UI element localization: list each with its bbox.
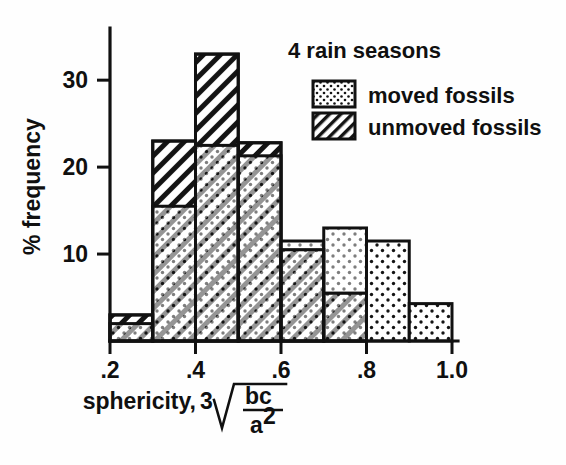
dotted-swatch-icon [313,81,355,107]
moved-fossils-bar [196,145,239,341]
moved-fossils-bar [110,324,153,341]
legend-label-unmoved: unmoved fossils [368,115,542,140]
x-tick-label: .2 [100,357,119,383]
moved-fossils-bar [367,241,410,341]
y-tick-label: 30 [62,67,88,93]
y-axis-ticks: 102030 [62,67,110,267]
x-axis-title-prefix: sphericity, [83,388,196,414]
x-axis-ticks: .2.4.6.81.0 [100,341,468,383]
moved-fossils-bar [324,228,367,341]
moved-fossils-bar [238,156,281,341]
moved-fossils-bar [409,304,452,341]
y-axis-title-text: % frequency [19,118,45,255]
x-axis-radical-index: 3 [200,388,213,414]
x-axis-denominator: a [250,412,263,438]
y-axis-title: % frequency [19,118,45,255]
y-tick-label: 10 [62,241,88,267]
chart-canvas: 102030 .2.4.6.81.0 % frequency sphericit… [0,0,566,465]
x-axis-title: sphericity, 3 bc a 2 [83,383,286,438]
hatched-swatch-icon [313,113,355,139]
x-axis-denominator-exponent: 2 [263,403,276,429]
moved-fossils-bar [281,241,324,341]
x-tick-label: .4 [186,357,205,383]
x-tick-label: .8 [357,357,376,383]
x-tick-label: 1.0 [436,357,468,383]
histogram-figure: 102030 .2.4.6.81.0 % frequency sphericit… [0,0,566,465]
y-tick-label: 20 [62,154,88,180]
legend-label-moved: moved fossils [368,83,515,108]
legend: 4 rain seasons moved fossils unmoved fos… [288,38,542,140]
x-tick-label: .6 [271,357,290,383]
legend-title-text: 4 rain seasons [288,38,441,63]
moved-fossils-bar [153,206,196,341]
